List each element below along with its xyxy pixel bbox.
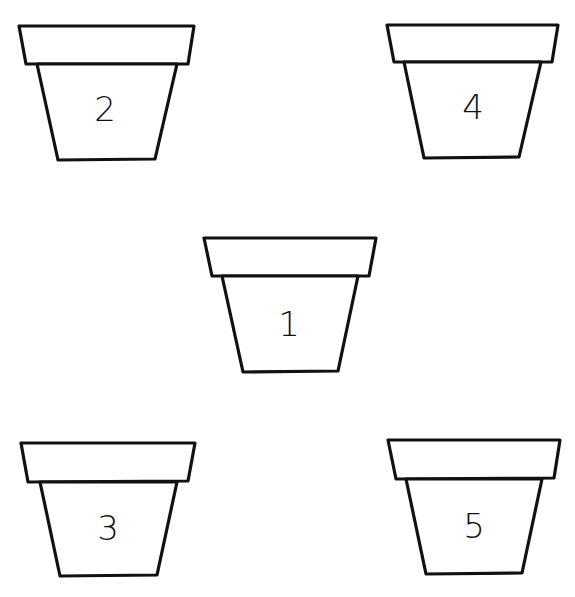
pot-number: 5 xyxy=(463,506,485,546)
pot-rim xyxy=(388,440,560,479)
flower-pot-2: 2 xyxy=(19,26,194,160)
flower-pot-5: 5 xyxy=(388,440,560,574)
pot-number: 3 xyxy=(97,508,119,548)
pot-number: 2 xyxy=(94,89,116,129)
pot-rim xyxy=(204,238,376,276)
flower-pot-4: 4 xyxy=(387,25,558,158)
flower-pot-3: 3 xyxy=(21,443,195,576)
pots-worksheet: 2 4 1 3 5 xyxy=(0,0,575,597)
flower-pot-1: 1 xyxy=(204,238,376,372)
pot-number: 4 xyxy=(462,87,484,127)
pot-rim xyxy=(19,26,194,64)
pot-rim xyxy=(387,25,558,62)
pot-rim xyxy=(21,443,195,482)
pot-number: 1 xyxy=(278,304,300,344)
